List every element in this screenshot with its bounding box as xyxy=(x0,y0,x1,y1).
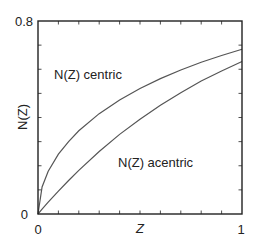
centric-annotation: N(Z) centric xyxy=(54,67,122,82)
acentric-annotation: N(Z) acentric xyxy=(118,155,194,170)
x-tick-label-left: 0 xyxy=(34,222,41,237)
cumulative-intensity-chart: 0.8 0 0 1 Z N(Z) N(Z) centric N(Z) acent… xyxy=(0,0,256,249)
axis-ticks xyxy=(38,21,242,214)
x-tick-label-right: 1 xyxy=(237,222,244,237)
y-tick-label-top: 0.8 xyxy=(15,14,33,29)
plot-frame xyxy=(38,21,242,214)
y-tick-label-bottom: 0 xyxy=(21,207,28,222)
x-axis-label: Z xyxy=(135,221,145,236)
acentric-curve xyxy=(38,62,242,214)
y-axis-label: N(Z) xyxy=(15,104,30,130)
